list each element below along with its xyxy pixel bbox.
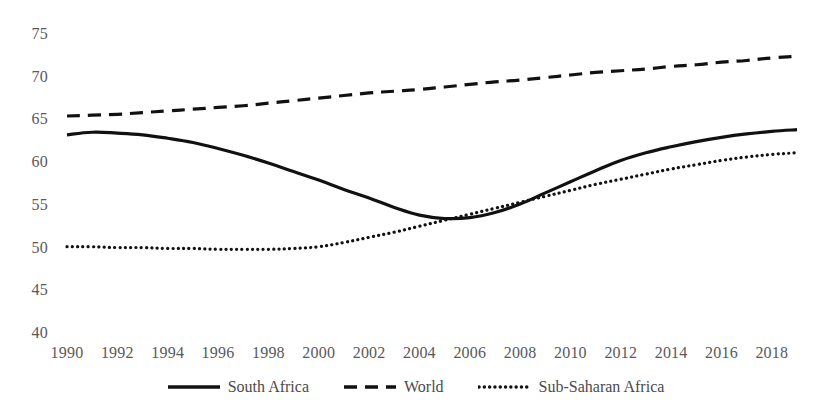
x-tick-label: 1992: [101, 345, 134, 361]
legend-swatch-dotted-icon: [478, 381, 532, 393]
legend-label: South Africa: [228, 378, 309, 395]
series-line-sub-saharan-africa: [67, 153, 797, 250]
x-tick-label: 1990: [51, 345, 84, 361]
x-tick-label: 2006: [453, 345, 486, 361]
x-tick-label: 2004: [403, 345, 436, 361]
legend-item[interactable]: Sub-Saharan Africa: [478, 378, 665, 395]
legend-label: Sub-Saharan Africa: [539, 378, 665, 395]
x-tick-label: 2010: [554, 345, 587, 361]
legend-item[interactable]: World: [343, 378, 444, 395]
x-tick-label: 2012: [604, 345, 637, 361]
chart-legend: South AfricaWorldSub-Saharan Africa: [0, 378, 831, 395]
line-chart: 4045505560657075 19901992199419961998200…: [0, 0, 831, 412]
x-tick-label: 1998: [252, 345, 285, 361]
legend-swatch-solid-icon: [167, 381, 221, 393]
x-tick-label: 1996: [202, 345, 235, 361]
y-tick-label: 45: [18, 282, 48, 298]
x-tick-label: 2014: [655, 345, 688, 361]
y-tick-label: 40: [18, 325, 48, 341]
x-tick-label: 2002: [353, 345, 386, 361]
x-tick-label: 2008: [504, 345, 537, 361]
x-tick-label: 1994: [151, 345, 184, 361]
x-tick-label: 2018: [755, 345, 788, 361]
legend-item[interactable]: South Africa: [167, 378, 309, 395]
x-tick-label: 2016: [705, 345, 738, 361]
y-tick-label: 70: [18, 69, 48, 85]
series-layer: [67, 56, 797, 249]
y-tick-label: 60: [18, 154, 48, 170]
x-tick-label: 2000: [302, 345, 335, 361]
y-tick-label: 50: [18, 240, 48, 256]
legend-label: World: [404, 378, 444, 395]
y-tick-label: 65: [18, 111, 48, 127]
series-line-world: [67, 56, 797, 116]
y-tick-label: 75: [18, 26, 48, 42]
series-line-south-africa: [67, 130, 797, 219]
y-tick-label: 55: [18, 197, 48, 213]
legend-swatch-dashed-icon: [343, 381, 397, 393]
